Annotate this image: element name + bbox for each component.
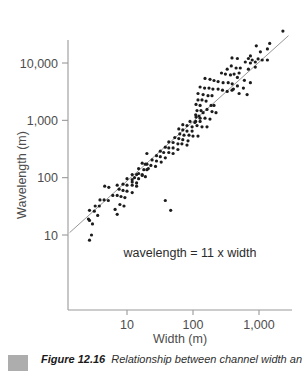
scatter-point [211, 88, 214, 91]
scatter-point [207, 87, 210, 90]
x-tick-label: 1,000 [243, 318, 274, 332]
scatter-point [230, 64, 233, 67]
scatter-point [147, 167, 150, 170]
scatter-point [249, 54, 252, 57]
scatter-point [125, 184, 128, 187]
scatter-point [249, 61, 252, 64]
scatter-point [118, 203, 121, 206]
scatter-point [247, 57, 250, 60]
scatter-point [118, 188, 121, 191]
y-tick-label: 1,000 [27, 114, 58, 128]
scatter-point [173, 136, 176, 139]
scatter-point [199, 85, 202, 88]
scatter-point [226, 90, 229, 93]
scatter-point [199, 117, 202, 120]
scatter-point [203, 87, 206, 90]
scatter-point [236, 76, 239, 79]
scatter-point [154, 165, 157, 168]
scatter-point [107, 199, 110, 202]
y-tick-label: 10,000 [20, 57, 58, 71]
y-axis-title: Wavelength (m) [15, 131, 29, 219]
chart-svg: 101001,000101001,00010,000Width (m)Wavel… [0, 0, 307, 350]
scatter-point [164, 199, 167, 202]
scatter-point [141, 162, 144, 165]
scatter-point [96, 214, 99, 217]
scatter-point [236, 84, 239, 87]
scatter-point [200, 98, 203, 101]
scatter-point [214, 111, 217, 114]
scatter-point [233, 73, 236, 76]
scatter-point [203, 77, 206, 80]
scatter-point [164, 146, 167, 149]
scatter-point [246, 93, 249, 96]
scatter-point [162, 151, 165, 154]
scatter-point [159, 155, 162, 158]
scatter-point [98, 204, 101, 207]
scatter-point [235, 66, 238, 69]
scatter-point [232, 88, 235, 91]
scatter-point [116, 213, 119, 216]
scatter-point [231, 82, 234, 85]
scatter-point [111, 194, 114, 197]
caption-bullet-square [8, 355, 28, 371]
scatter-point [141, 174, 144, 177]
scatter-point [208, 78, 211, 81]
scatter-point [242, 87, 245, 90]
scatter-point [230, 56, 233, 59]
scatter-point [145, 152, 148, 155]
scatter-point [181, 123, 184, 126]
scatter-point [142, 168, 145, 171]
x-tick-label: 100 [183, 318, 204, 332]
y-tick-label: 10 [44, 229, 58, 243]
scatter-point [98, 198, 101, 201]
scatter-point [224, 73, 227, 76]
scatter-point [205, 125, 208, 128]
scatter-point [164, 156, 167, 159]
scatter-point [122, 204, 125, 207]
scatter-point [205, 100, 208, 103]
scatter-point [169, 209, 172, 212]
scatter-point [244, 60, 247, 63]
scatter-point [200, 125, 203, 128]
scatter-point [125, 177, 128, 180]
scatter-point [176, 142, 179, 145]
scatter-point [172, 152, 175, 155]
scatter-point [194, 103, 197, 106]
scatter-point [131, 178, 134, 181]
scatter-point [191, 125, 194, 128]
scatter-point [236, 57, 239, 60]
scatter-point [257, 57, 260, 60]
scatter-point [217, 88, 220, 91]
scatter-point [187, 134, 190, 137]
scatter-chart: 101001,000101001,00010,000Width (m)Wavel… [0, 0, 307, 350]
caption-text: Figure 12.16Relationship between channel… [41, 353, 302, 366]
scatter-point [193, 121, 196, 124]
scatter-point [194, 116, 197, 119]
scatter-point [254, 66, 257, 69]
scatter-point [114, 208, 117, 211]
scatter-point [135, 185, 138, 188]
scatter-point [226, 68, 229, 71]
scatter-point [121, 189, 124, 192]
scatter-point [176, 148, 179, 151]
scatter-point [210, 94, 213, 97]
scatter-point [247, 68, 250, 71]
scatter-point [160, 161, 163, 164]
scatter-point [227, 81, 230, 84]
figure-caption-body: Relationship between channel width an [111, 353, 302, 365]
scatter-point [181, 128, 184, 131]
scatter-point [238, 71, 241, 74]
scatter-point [144, 175, 147, 178]
scatter-point [212, 104, 215, 107]
scatter-point [238, 92, 241, 95]
scatter-point [203, 117, 206, 120]
scatter-point [186, 139, 189, 142]
scatter-point [212, 79, 215, 82]
scatter-point [103, 198, 106, 201]
scatter-point [249, 81, 252, 84]
scatter-point [239, 66, 242, 69]
y-tick-label: 100 [37, 171, 58, 185]
scatter-point [172, 141, 175, 144]
scatter-point [196, 135, 199, 138]
